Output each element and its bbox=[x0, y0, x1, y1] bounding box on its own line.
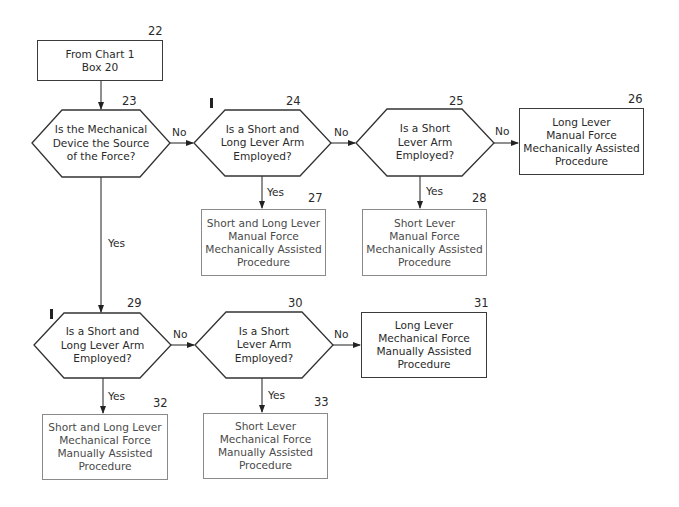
box-22-line-2: Box 20 bbox=[82, 61, 119, 74]
decision-24: Is a Short and Long Lever Arm Employed? bbox=[202, 110, 323, 176]
outcome-box-33: Short Lever Mechanical Force Manually As… bbox=[203, 413, 328, 479]
box-26-line-2: Manual Force bbox=[546, 129, 617, 142]
box-33-line-1: Short Lever bbox=[235, 420, 296, 433]
node-number-31: 31 bbox=[474, 296, 489, 310]
start-box-22: From Chart 1 Box 20 bbox=[37, 40, 163, 81]
box-33-line-2: Mechanical Force bbox=[220, 433, 312, 446]
node-number-23: 23 bbox=[122, 94, 137, 108]
box-26-line-4: Procedure bbox=[555, 155, 608, 168]
node-number-27: 27 bbox=[308, 191, 323, 205]
box-31-line-2: Mechanical Force bbox=[378, 332, 470, 345]
box-28-line-2: Manual Force bbox=[389, 230, 460, 243]
decision-25-line-1: Is a Short bbox=[400, 122, 450, 136]
box-27-line-1: Short and Long Lever bbox=[207, 217, 320, 230]
outcome-box-27: Short and Long Lever Manual Force Mechan… bbox=[201, 209, 326, 276]
edge-label-25-26: No bbox=[495, 125, 509, 137]
decision-30-line-2: Lever Arm bbox=[237, 338, 291, 352]
decision-29-line-1: Is a Short and bbox=[66, 325, 140, 339]
decision-30-line-3: Employed? bbox=[235, 352, 293, 366]
decision-23-line-1: Is the Mechanical bbox=[55, 123, 147, 137]
box-32-line-2: Mechanical Force bbox=[59, 434, 151, 447]
box-28-line-3: Mechanically Assisted bbox=[366, 243, 482, 256]
edge-label-29-30: No bbox=[173, 328, 187, 340]
node-number-22: 22 bbox=[148, 24, 163, 38]
outcome-box-31: Long Lever Mechanical Force Manually Ass… bbox=[361, 312, 487, 378]
decision-24-line-3: Employed? bbox=[233, 150, 291, 164]
outcome-box-28: Short Lever Manual Force Mechanically As… bbox=[362, 209, 487, 276]
edge-label-24-25: No bbox=[334, 126, 348, 138]
edge-label-25-28: Yes bbox=[426, 185, 443, 197]
box-32-line-4: Procedure bbox=[78, 460, 131, 473]
decision-23-line-2: Device the Source bbox=[53, 137, 150, 151]
decision-24-line-2: Long Lever Arm bbox=[221, 136, 304, 150]
outcome-box-32: Short and Long Lever Mechanical Force Ma… bbox=[42, 414, 168, 480]
box-28-line-4: Procedure bbox=[398, 256, 451, 269]
box-31-line-3: Manually Assisted bbox=[376, 345, 471, 358]
box-31-line-4: Procedure bbox=[397, 358, 450, 371]
edge-label-23-29: Yes bbox=[108, 237, 125, 249]
decision-23-line-3: of the Force? bbox=[67, 150, 136, 164]
box-28-line-1: Short Lever bbox=[394, 217, 455, 230]
box-33-line-3: Manually Assisted bbox=[218, 446, 313, 459]
edge-label-24-27: Yes bbox=[267, 186, 284, 198]
node-number-29: 29 bbox=[127, 296, 142, 310]
decision-29-line-3: Employed? bbox=[73, 352, 131, 366]
decision-25-line-2: Lever Arm bbox=[398, 136, 452, 150]
box-26-line-3: Mechanically Assisted bbox=[523, 142, 639, 155]
decision-25-line-3: Employed? bbox=[396, 149, 454, 163]
decision-24-line-1: Is a Short and bbox=[226, 123, 300, 137]
edge-label-29-32: Yes bbox=[108, 390, 125, 402]
box-22-line-1: From Chart 1 bbox=[66, 48, 135, 61]
decision-25: Is a Short Lever Arm Employed? bbox=[364, 109, 486, 176]
marker-24 bbox=[210, 98, 213, 108]
edge-label-23-24: No bbox=[172, 126, 186, 138]
decision-30: Is a Short Lever Arm Employed? bbox=[203, 312, 325, 378]
node-number-26: 26 bbox=[628, 92, 643, 106]
edge-label-30-33: Yes bbox=[268, 389, 285, 401]
box-27-line-2: Manual Force bbox=[228, 230, 299, 243]
node-number-32: 32 bbox=[153, 396, 168, 410]
edge-label-30-31: No bbox=[334, 328, 348, 340]
box-26-line-1: Long Lever bbox=[552, 116, 610, 129]
node-number-25: 25 bbox=[449, 94, 464, 108]
node-number-24: 24 bbox=[286, 94, 301, 108]
node-number-33: 33 bbox=[314, 395, 329, 409]
node-number-28: 28 bbox=[472, 191, 487, 205]
box-32-line-1: Short and Long Lever bbox=[48, 421, 161, 434]
decision-23: Is the Mechanical Device the Source of t… bbox=[40, 110, 162, 177]
decision-29: Is a Short and Long Lever Arm Employed? bbox=[42, 313, 163, 378]
box-32-line-3: Manually Assisted bbox=[57, 447, 152, 460]
box-27-line-3: Mechanically Assisted bbox=[205, 243, 321, 256]
box-33-line-4: Procedure bbox=[239, 459, 292, 472]
box-31-line-1: Long Lever bbox=[395, 319, 453, 332]
node-number-30: 30 bbox=[288, 296, 303, 310]
decision-29-line-2: Long Lever Arm bbox=[61, 339, 144, 353]
box-27-line-4: Procedure bbox=[237, 256, 290, 269]
outcome-box-26: Long Lever Manual Force Mechanically Ass… bbox=[519, 108, 644, 175]
decision-30-line-1: Is a Short bbox=[239, 325, 289, 339]
